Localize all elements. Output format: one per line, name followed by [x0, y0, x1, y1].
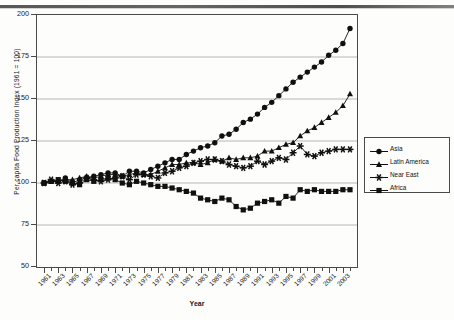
x-axis-tick: [307, 268, 308, 271]
data-point: [255, 111, 260, 116]
chart-figure: 5075100125150175200 Per capita Food Prod…: [0, 0, 454, 320]
data-point: [262, 199, 267, 204]
series-latin-america: [41, 91, 353, 186]
x-axis-tick-label: 1997: [293, 272, 308, 287]
data-point: [155, 184, 160, 189]
data-point: [84, 177, 89, 182]
x-axis-tick-label: 1993: [264, 272, 279, 287]
data-point: [77, 182, 82, 187]
data-point: [105, 175, 110, 180]
legend-label: Asia: [389, 145, 402, 152]
x-axis-tick-label: 1967: [79, 272, 94, 287]
x-axis-tick-label: 1985: [207, 272, 222, 287]
data-point: [276, 201, 281, 206]
x-axis-tick-label: 1969: [94, 272, 109, 287]
data-point: [233, 127, 238, 132]
square-marker-icon: [369, 182, 389, 193]
legend-label: Near East: [389, 171, 418, 178]
series-line: [44, 146, 350, 185]
data-point: [198, 145, 203, 150]
x-axis-tick-label: 1963: [51, 272, 66, 287]
data-point: [234, 204, 239, 209]
x-axis-tick: [108, 268, 109, 271]
x-axis-tick-label: 1995: [279, 272, 294, 287]
data-point: [333, 48, 338, 53]
data-point: [319, 59, 324, 64]
x-axis-tick: [65, 268, 66, 271]
data-point: [269, 100, 274, 105]
data-point: [191, 148, 196, 153]
legend-item[interactable]: Near East: [369, 168, 446, 181]
data-point: [41, 180, 46, 185]
x-axis-tick: [293, 268, 294, 271]
x-axis-tick-label: 1983: [193, 272, 208, 287]
data-point: [241, 207, 246, 212]
data-point: [276, 93, 281, 98]
data-point: [319, 119, 325, 125]
data-point: [305, 69, 310, 74]
x-axis-tick: [137, 268, 138, 271]
data-point: [326, 53, 331, 58]
data-point: [205, 197, 210, 202]
x-axis-tick: [51, 268, 52, 271]
data-point: [212, 199, 217, 204]
legend-item[interactable]: Africa: [369, 181, 446, 194]
x-axis-tick-label: 1989: [236, 272, 251, 287]
data-point: [120, 180, 125, 185]
x-axis-tick: [193, 268, 194, 271]
legend-label: Latin America: [389, 158, 429, 165]
data-point: [162, 184, 167, 189]
data-point: [340, 41, 345, 46]
data-point: [340, 103, 346, 109]
data-point: [305, 189, 310, 194]
x-axis-tick-label: 1991: [250, 272, 265, 287]
data-point: [113, 177, 118, 182]
x-axis-tick: [94, 268, 95, 271]
data-point: [205, 143, 210, 148]
data-point: [304, 128, 310, 134]
data-point: [226, 132, 231, 137]
x-axis-title: Year: [0, 300, 394, 307]
x-axis-tick: [322, 268, 323, 271]
x-axis-tick-label: 1987: [222, 272, 237, 287]
data-point: [191, 190, 196, 195]
data-point: [198, 196, 203, 201]
data-point: [297, 74, 302, 79]
data-point: [297, 133, 303, 139]
legend-item[interactable]: Latin America: [369, 155, 446, 168]
x-axis-tick: [236, 268, 237, 271]
data-point: [49, 179, 54, 184]
data-point: [212, 140, 217, 145]
x-axis-tick-label: 1977: [150, 272, 165, 287]
x-axis-tick-label: 1965: [65, 272, 80, 287]
x-axis-tick: [208, 268, 209, 271]
scan-artifact-line-secondary: [0, 8, 454, 9]
data-point: [276, 145, 282, 151]
data-point: [326, 114, 332, 120]
x-axis-tick-label: 2003: [336, 272, 351, 287]
data-point: [226, 197, 231, 202]
data-point: [255, 201, 260, 206]
data-point: [134, 179, 139, 184]
data-point: [326, 189, 331, 194]
x-axis-tick-label: 1975: [136, 272, 151, 287]
data-point: [347, 187, 352, 192]
data-point: [312, 64, 317, 69]
legend: AsiaLatin AmericaNear EastAfrica: [364, 137, 450, 193]
data-point: [312, 187, 317, 192]
data-point: [290, 196, 295, 201]
data-point: [98, 177, 103, 182]
data-point: [226, 155, 232, 161]
y-axis-tick-label: 200: [17, 10, 29, 18]
legend-item[interactable]: Asia: [369, 142, 446, 155]
data-point: [298, 187, 303, 192]
data-point: [141, 180, 146, 185]
data-point: [340, 187, 345, 192]
y-axis-tick-label: 75: [21, 220, 29, 228]
y-axis-title: Per capita Food Production Index (1961 =…: [13, 22, 20, 222]
data-point: [162, 165, 168, 171]
series-africa: [41, 175, 352, 212]
triangle-marker-icon: [369, 156, 389, 167]
x-axis-tick: [222, 268, 223, 271]
data-point: [184, 189, 189, 194]
